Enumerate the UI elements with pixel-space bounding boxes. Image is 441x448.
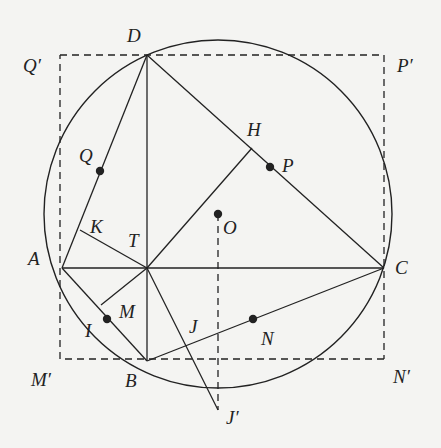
label-O: O bbox=[223, 217, 237, 238]
label-N: N bbox=[260, 328, 275, 349]
label-Qp: Q′ bbox=[23, 55, 42, 76]
dashed-lines bbox=[60, 55, 384, 410]
label-K: K bbox=[89, 216, 104, 237]
label-Pp: P′ bbox=[396, 55, 414, 76]
label-I: I bbox=[84, 320, 93, 341]
label-Np: N′ bbox=[392, 366, 411, 387]
segment-D-C bbox=[147, 55, 384, 268]
geometry-diagram: DACBTOHPQKMIJNQ′P′M′N′J′ bbox=[0, 0, 441, 448]
segment-T-Jp bbox=[147, 268, 218, 410]
segment-T-H bbox=[147, 148, 252, 268]
label-A: A bbox=[26, 248, 40, 269]
label-P: P bbox=[281, 155, 294, 176]
dot-M bbox=[103, 315, 111, 323]
segment-T-I bbox=[101, 268, 147, 305]
point-dots bbox=[96, 163, 274, 323]
label-H: H bbox=[246, 119, 262, 140]
dot-Q bbox=[96, 167, 104, 175]
label-T: T bbox=[128, 230, 140, 251]
label-M: M bbox=[118, 301, 136, 322]
dot-N bbox=[249, 315, 257, 323]
dot-O bbox=[214, 210, 222, 218]
circle-quadrilateral-figure: DACBTOHPQKMIJNQ′P′M′N′J′ bbox=[0, 0, 441, 448]
label-J: J bbox=[189, 316, 199, 337]
label-C: C bbox=[395, 257, 408, 278]
label-D: D bbox=[126, 25, 141, 46]
label-Mp: M′ bbox=[30, 369, 52, 390]
dot-P bbox=[266, 163, 274, 171]
label-Q: Q bbox=[79, 145, 93, 166]
label-B: B bbox=[125, 370, 137, 391]
label-Jp: J′ bbox=[226, 407, 239, 428]
